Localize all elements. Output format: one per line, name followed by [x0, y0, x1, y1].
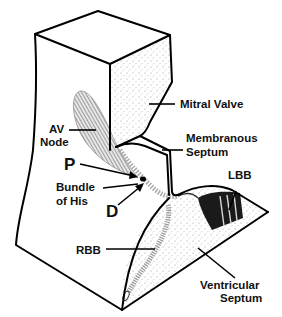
label-membranous-septum-1: Membranous	[186, 132, 258, 144]
label-distal: D	[106, 202, 118, 221]
conduction-diagram: Mitral Valve AV Node Membranous Septum P…	[0, 0, 282, 317]
label-ventricular-septum-2: Septum	[220, 292, 262, 304]
label-av-node-2: Node	[40, 136, 69, 148]
label-av-node-1: AV	[49, 123, 64, 135]
leader-bundle-of-his	[103, 184, 138, 188]
label-proximal: P	[64, 155, 75, 174]
label-membranous-septum-2: Septum	[186, 146, 228, 158]
his-bundle-dot	[140, 177, 146, 182]
mitral-valve-face	[110, 35, 172, 147]
leader-ventricular-septum	[198, 248, 235, 278]
label-ventricular-septum-1: Ventricular	[200, 279, 260, 291]
membranous-septum-upper	[140, 136, 180, 195]
label-bundle-of-his-1: Bundle	[56, 181, 95, 193]
label-bundle-of-his-2: of His	[56, 195, 88, 207]
label-rbb: RBB	[76, 244, 101, 256]
label-lbb: LBB	[228, 169, 252, 181]
label-mitral-valve: Mitral Valve	[180, 98, 243, 110]
